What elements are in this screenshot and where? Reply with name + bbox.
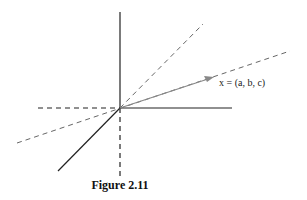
dashed-line-steep — [120, 24, 203, 108]
figure-2-11: x = (a, b, c) Figure 2.11 — [0, 0, 307, 200]
figure-caption: Figure 2.11 — [0, 178, 240, 193]
vector-x — [120, 78, 211, 108]
x-axis-positive — [58, 108, 120, 171]
vector-label: x = (a, b, c) — [219, 77, 265, 88]
coordinate-axes-diagram — [0, 0, 307, 200]
arrowhead-icon — [204, 76, 214, 82]
